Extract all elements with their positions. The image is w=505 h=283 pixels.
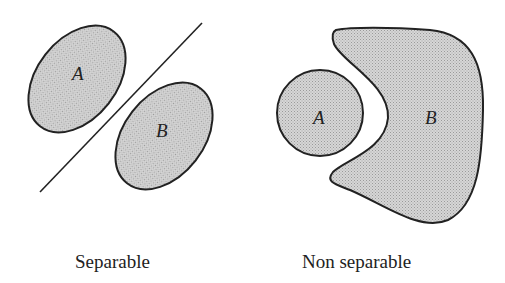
separability-diagram: A B Separable A B Non separable (0, 0, 505, 283)
region-b-label: B (425, 107, 437, 128)
region-a-label: A (70, 63, 84, 84)
separable-panel: A B Separable (9, 7, 233, 272)
separable-caption: Separable (75, 251, 150, 272)
non-separable-panel: A B Non separable (277, 28, 483, 272)
region-b-label: B (156, 120, 168, 141)
non-separable-caption: Non separable (302, 251, 411, 272)
region-a-label: A (311, 107, 325, 128)
